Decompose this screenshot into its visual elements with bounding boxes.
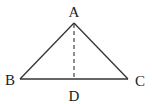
triangle-diagram: A B C D [0,0,152,104]
segment-ab [20,23,74,79]
segment-ac [74,23,128,79]
label-b: B [5,72,15,88]
label-a: A [69,4,80,20]
label-d: D [69,88,80,104]
label-c: C [135,73,145,89]
